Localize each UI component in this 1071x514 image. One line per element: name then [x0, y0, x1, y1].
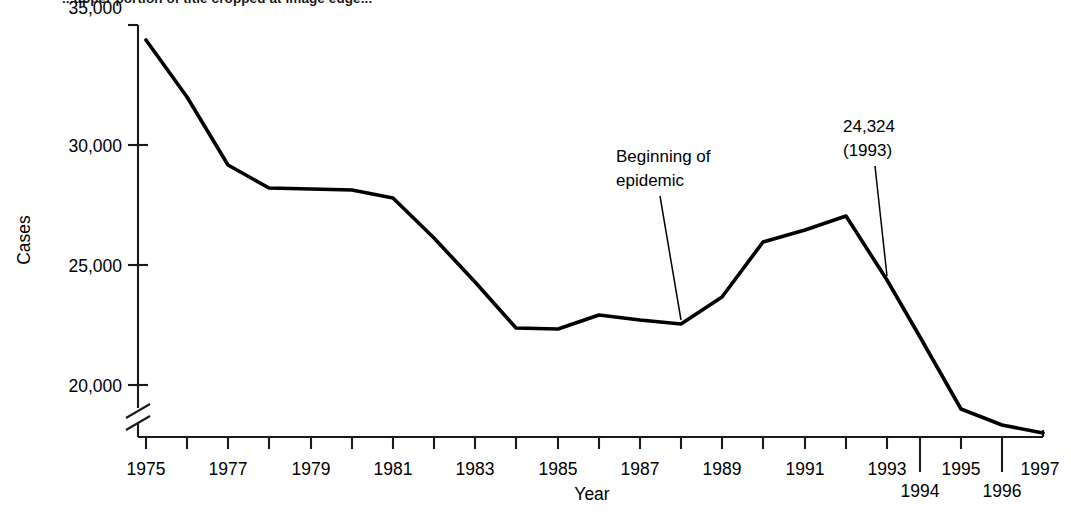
annotation-epidemic-leader-line [660, 196, 681, 320]
line-chart-svg: 35,000 30,000 25,000 20,000 Cases 1975 1… [0, 0, 1071, 514]
cases-data-line [146, 40, 1043, 433]
x-tick-label-1997: 1997 [1021, 459, 1060, 479]
y-tick-label-30000: 30,000 [68, 136, 122, 156]
annotation-epidemic-line1: Beginning of [616, 147, 711, 166]
y-axis-title: Cases [14, 215, 34, 265]
y-tick-label-20000: 20,000 [68, 376, 122, 396]
x-tick-label-1996: 1996 [983, 481, 1022, 501]
x-tick-label-1987: 1987 [621, 459, 660, 479]
x-tick-label-1977: 1977 [209, 459, 248, 479]
x-tick-label-1993: 1993 [868, 459, 907, 479]
x-tick-label-1979: 1979 [292, 459, 331, 479]
x-tick-label-1994: 1994 [901, 481, 940, 501]
chart-figure: ...upper portion of title cropped at ima… [0, 0, 1071, 514]
y-tick-label-25000: 25,000 [68, 256, 122, 276]
annotation-peak-line2: (1993) [843, 141, 892, 160]
x-tick-label-1983: 1983 [456, 459, 495, 479]
annotation-peak-line1: 24,324 [843, 117, 895, 136]
annotation-epidemic-line2: epidemic [616, 171, 685, 190]
x-tick-label-1991: 1991 [786, 459, 825, 479]
x-tick-label-1985: 1985 [539, 459, 578, 479]
x-tick-label-1981: 1981 [374, 459, 413, 479]
annotation-peak-leader-line [875, 166, 887, 276]
y-tick-label-35000: 35,000 [68, 0, 122, 18]
x-axis-title: Year [574, 484, 610, 504]
x-tick-label-1975: 1975 [127, 459, 166, 479]
x-tick-label-1995: 1995 [942, 459, 981, 479]
x-tick-label-1989: 1989 [703, 459, 742, 479]
